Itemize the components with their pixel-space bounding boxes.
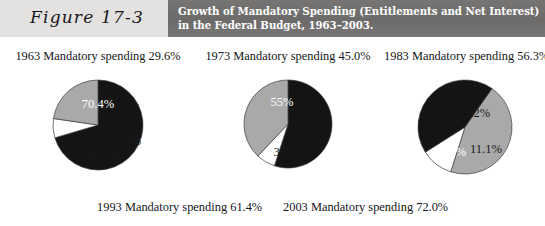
pie-caption-1983: 1983 Mandatory spending 56.3% xyxy=(384,49,545,64)
pie-slice-label: 7% xyxy=(308,132,325,146)
pie-slice-label: 55% xyxy=(270,95,294,109)
pie-slice-label: 70.4% xyxy=(82,97,115,111)
pie-slice-label: 6.9% xyxy=(115,134,142,148)
pie-canvas-1973: 55%7%38% xyxy=(198,77,378,182)
pie-caption-1963: 1963 Mandatory spending 29.6% xyxy=(8,49,188,64)
pie-canvas-1963: 70.4%6.9%22.7% xyxy=(8,77,188,182)
pie-slice-label: 45.2% xyxy=(457,106,490,120)
pie-caption-1973: 1973 Mandatory spending 45.0% xyxy=(198,49,378,64)
pie-graphic: 45.2%11.1%43.7% xyxy=(415,77,515,177)
pie-caption-2003: 2003 Mandatory spending 72.0% xyxy=(283,200,448,215)
figure-title-band: Growth of Mandatory Spending (Entitlemen… xyxy=(168,0,545,37)
pie-slice-label: 22.7% xyxy=(87,148,120,162)
pie-canvas-1983: 45.2%11.1%43.7% xyxy=(384,77,545,182)
pie-slice-label: 43.7% xyxy=(433,145,466,159)
bottom-caption-row: 1993 Mandatory spending 61.4% 2003 Manda… xyxy=(0,200,545,226)
pie-caption-1993: 1993 Mandatory spending 61.4% xyxy=(97,200,262,215)
figure-title: Growth of Mandatory Spending (Entitlemen… xyxy=(178,4,540,32)
pie-graphic: 55%7%38% xyxy=(241,77,335,171)
figure-header: Figure 17-3 Growth of Mandatory Spending… xyxy=(0,0,545,37)
figure-number-label: Figure 17-3 xyxy=(30,7,144,27)
pie-graphic: 70.4%6.9%22.7% xyxy=(50,77,146,173)
pie-slice-label: 11.1% xyxy=(469,142,502,156)
pie-slice-label: 38% xyxy=(273,145,297,159)
pie-chart-row: 1963 Mandatory spending 29.6% 70.4%6.9%2… xyxy=(0,37,545,226)
figure-label-box: Figure 17-3 xyxy=(0,0,168,37)
